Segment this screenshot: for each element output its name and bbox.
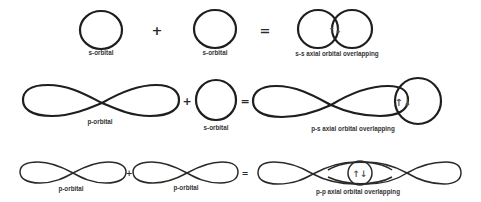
operand-label: p-orbital bbox=[58, 185, 83, 193]
plus-sign: + bbox=[182, 95, 191, 108]
electron-pair-arrows: ↑↓ bbox=[352, 169, 367, 179]
operand-label: s-orbital bbox=[204, 124, 229, 131]
plus-sign: + bbox=[126, 169, 133, 178]
operand-label: p-orbital bbox=[173, 184, 198, 192]
result-label: p-p axial orbital overlapping bbox=[316, 188, 400, 196]
p-orbital-shape bbox=[20, 162, 126, 183]
electron-pair-arrows: ↑↓ bbox=[328, 26, 341, 35]
equals-sign: = bbox=[260, 23, 271, 38]
result-label: p-s axial orbital overlapping bbox=[311, 125, 395, 133]
s-orbital-shape bbox=[196, 80, 236, 120]
p-orbital-overlap-shape bbox=[253, 86, 408, 117]
equals-sign: = bbox=[242, 169, 249, 178]
row-p-s: p-orbital + s-orbital = ↑↓ p-s axial orb… bbox=[23, 78, 441, 133]
operand-label: s-orbital bbox=[203, 49, 228, 56]
p-orbital-shape bbox=[133, 162, 238, 183]
s-orbital-shape bbox=[194, 10, 236, 48]
orbital-overlap-diagram: s-orbital + s-orbital = ↑↓ s-s axial orb… bbox=[0, 0, 481, 202]
row-p-p: p-orbital + p-orbital = ↑↓ p-p axial orb… bbox=[20, 161, 461, 196]
p-orbital-shape bbox=[23, 85, 179, 116]
s-orbital-shape bbox=[80, 11, 122, 49]
plus-sign: + bbox=[152, 23, 163, 38]
equals-sign: = bbox=[240, 95, 249, 108]
row-s-s: s-orbital + s-orbital = ↑↓ s-s axial orb… bbox=[80, 10, 379, 58]
operand-label: p-orbital bbox=[87, 118, 112, 126]
result-label: s-s axial orbital overlapping bbox=[295, 50, 378, 58]
operand-label: s-orbital bbox=[89, 49, 114, 56]
electron-pair-arrows: ↑↓ bbox=[395, 97, 412, 108]
